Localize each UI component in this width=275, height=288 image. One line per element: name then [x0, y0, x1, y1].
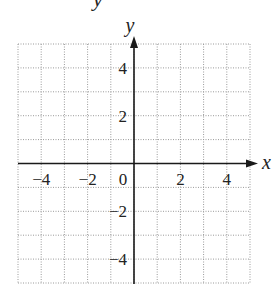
x-tick-label: −2	[79, 170, 97, 189]
x-axis-label: x	[261, 151, 271, 173]
y-axis-label: y	[124, 14, 135, 37]
y-axis-arrow-icon	[130, 36, 138, 48]
x-tick-label: −4	[32, 170, 51, 189]
y-tick-label: −4	[109, 250, 128, 269]
y-tick-label: −2	[109, 202, 127, 221]
x-tick-label: 0	[119, 170, 128, 189]
x-axis-arrow-icon	[246, 160, 258, 168]
tick-labels: −4−202442−2−4xy	[32, 14, 271, 269]
y-tick-label: 2	[119, 107, 128, 126]
axes	[18, 36, 258, 284]
x-tick-label: 4	[223, 170, 232, 189]
x-tick-label: 2	[176, 170, 185, 189]
y-tick-label: 4	[119, 59, 128, 78]
coordinate-plane: −4−202442−2−4xy	[0, 0, 275, 288]
